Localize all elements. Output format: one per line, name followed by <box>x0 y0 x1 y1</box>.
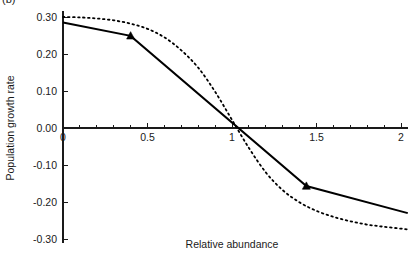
y-tick-label: -0.10 <box>33 159 57 171</box>
x-tick-label: 1.5 <box>309 131 324 143</box>
y-tick-label: -0.20 <box>33 196 57 208</box>
series-observed-piecewise <box>63 23 408 214</box>
x-tick-label: 1 <box>229 131 235 143</box>
series-fitted-curve <box>63 17 408 229</box>
y-axis-title: Population growth rate <box>4 75 16 180</box>
figure-panel: (b) 0.300.200.100.00-0.10-0.20-0.30 00.5… <box>0 0 416 253</box>
x-axis-group: 00.511.52 <box>60 123 408 143</box>
series-group <box>63 17 408 229</box>
y-tick-label: 0.30 <box>37 11 58 23</box>
x-tick-label: 2 <box>398 131 404 143</box>
x-axis-major-ticks <box>148 123 402 128</box>
x-tick-label: 0 <box>60 131 66 143</box>
y-tick-label: 0.20 <box>37 48 58 60</box>
x-tick-label: 0.5 <box>140 131 155 143</box>
y-axis-group: 0.300.200.100.00-0.10-0.20-0.30 <box>33 11 67 245</box>
y-tick-label: 0.00 <box>37 122 58 134</box>
y-tick-label: -0.30 <box>33 233 57 245</box>
y-tick-label: 0.10 <box>37 85 58 97</box>
y-axis-tick-labels: 0.300.200.100.00-0.10-0.20-0.30 <box>33 11 57 245</box>
x-axis-tick-labels: 00.511.52 <box>60 131 404 143</box>
x-axis-title: Relative abundance <box>186 238 279 250</box>
chart-canvas: 0.300.200.100.00-0.10-0.20-0.30 00.511.5… <box>0 0 416 253</box>
